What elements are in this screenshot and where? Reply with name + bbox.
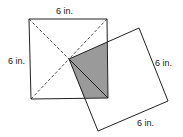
- overlapping-squares-diagram: 6 in. 6 in. 6 in. 6 in.: [0, 0, 183, 137]
- label-square1-top: 6 in.: [56, 6, 73, 16]
- label-square1-left: 6 in.: [8, 56, 25, 66]
- label-square2-right: 6 in.: [155, 58, 172, 68]
- label-square2-bottom: 6 in.: [137, 118, 154, 128]
- diagonal-bottom-left-to-center: [31, 59, 69, 99]
- diagonal-top-left-to-center: [29, 19, 69, 59]
